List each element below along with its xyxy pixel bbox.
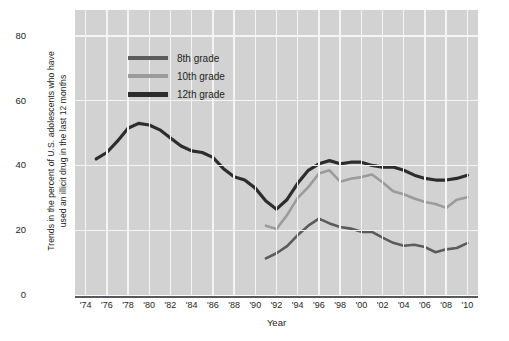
- vertical-gridline: [382, 10, 383, 295]
- vertical-gridline: [297, 10, 298, 295]
- vertical-gridline: [361, 10, 362, 295]
- y-tick-label: 0: [0, 289, 26, 300]
- legend-label: 10th grade: [177, 71, 225, 82]
- y-axis-title-line-2: used an illicit drug in the last 12 mont…: [58, 6, 70, 296]
- horizontal-gridline: [75, 35, 478, 36]
- vertical-gridline: [85, 10, 86, 295]
- vertical-gridline: [318, 10, 319, 295]
- vertical-gridline: [467, 10, 468, 295]
- horizontal-gridline: [75, 230, 478, 231]
- y-axis-title-line-1: Trends in the percent of U.S. adolescent…: [46, 6, 58, 296]
- vertical-gridline: [276, 10, 277, 295]
- legend-swatch-icon: [128, 74, 168, 78]
- vertical-gridline: [106, 10, 107, 295]
- y-tick-label: 40: [0, 159, 26, 170]
- legend-item: 12th grade: [128, 86, 258, 102]
- horizontal-gridline: [75, 165, 478, 166]
- x-axis-title: Year: [75, 317, 478, 328]
- x-tick-label: '10: [450, 300, 484, 310]
- vertical-gridline: [424, 10, 425, 295]
- vertical-gridline: [403, 10, 404, 295]
- legend-label: 8th grade: [177, 53, 219, 64]
- vertical-gridline: [339, 10, 340, 295]
- chart-legend: 8th grade10th grade12th grade: [128, 50, 258, 104]
- y-tick-label: 80: [0, 30, 26, 41]
- chart-screenshot: Trends in the percent of U.S. adolescent…: [0, 0, 509, 341]
- legend-swatch-icon: [128, 56, 168, 60]
- vertical-gridline: [445, 10, 446, 295]
- y-axis-title-text: Trends in the percent of U.S. adolescent…: [46, 6, 69, 296]
- x-axis-line: [75, 296, 478, 298]
- legend-item: 10th grade: [128, 68, 258, 84]
- legend-swatch-icon: [128, 92, 168, 97]
- legend-item: 8th grade: [128, 50, 258, 66]
- y-tick-label: 60: [0, 95, 26, 106]
- y-axis-title: Trends in the percent of U.S. adolescent…: [0, 0, 52, 300]
- y-tick-label: 20: [0, 224, 26, 235]
- legend-label: 12th grade: [177, 89, 225, 100]
